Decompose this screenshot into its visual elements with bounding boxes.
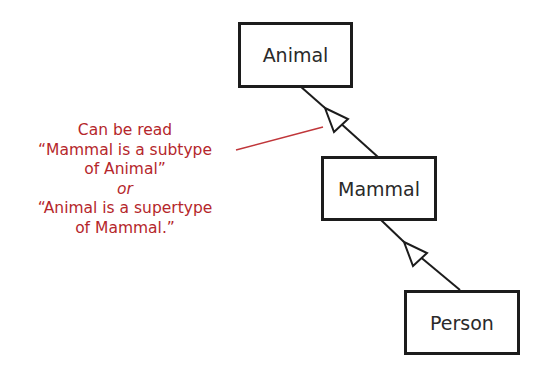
annotation-leader-line: [236, 127, 323, 150]
class-label: Person: [430, 312, 494, 334]
annotation-line: “Mammal is a subtype: [10, 141, 240, 161]
class-label: Animal: [263, 44, 329, 66]
class-label: Mammal: [338, 178, 420, 200]
class-box-mammal: Mammal: [321, 156, 437, 221]
class-box-person: Person: [404, 290, 520, 355]
class-box-animal: Animal: [238, 22, 353, 88]
annotation-line: of Mammal.”: [10, 219, 240, 239]
annotation-line: of Animal”: [10, 160, 240, 180]
hollow-triangle-arrowhead-icon: [404, 242, 427, 266]
annotation-line: “Animal is a supertype: [10, 199, 240, 219]
generalization-mammal-animal: [300, 86, 378, 157]
hollow-triangle-arrowhead-icon: [325, 108, 348, 132]
annotation-line: Can be read: [10, 121, 240, 141]
annotation-or: or: [10, 180, 240, 200]
annotation-note: Can be read “Mammal is a subtype of Anim…: [10, 121, 240, 238]
generalization-person-mammal: [381, 220, 460, 290]
